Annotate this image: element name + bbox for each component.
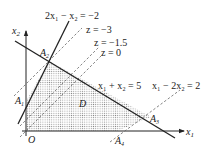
z-label-0: z = 0	[101, 47, 121, 58]
x1-axis-label: x1	[185, 126, 194, 139]
region-label-d: D	[78, 98, 87, 109]
lp-diagram: 2x₁ − x₂ = −2 z = −3 z = −1.5 z = 0 x₁ +…	[0, 0, 205, 158]
z-label-neg3: z = −3	[86, 24, 112, 35]
constraint-label-c1: 2x₁ − x₂ = −2	[45, 10, 99, 21]
constraint-label-c3: x₁ − 2x₂ = 2	[152, 80, 200, 91]
x2-axis-label: x2	[11, 25, 20, 38]
vertex-label-a4: A4	[114, 135, 124, 147]
constraint-label-c2: x₁ + x₂ = 5	[98, 80, 141, 91]
vertex-label-a2: A2	[39, 47, 49, 59]
vertex-label-a3: A3	[149, 113, 159, 125]
vertex-label-a1: A1	[14, 95, 24, 107]
feasible-region	[26, 61, 151, 131]
origin-label: O	[28, 134, 35, 145]
